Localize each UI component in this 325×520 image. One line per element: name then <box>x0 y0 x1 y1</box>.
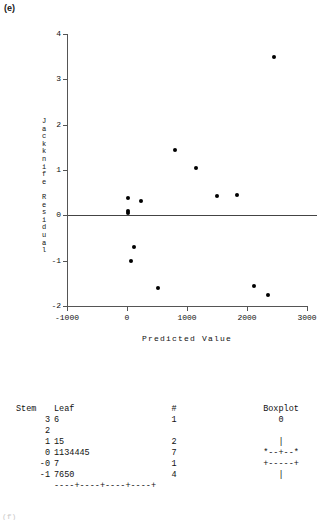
boxplot-cell: 0 <box>250 415 312 426</box>
count-value: 2 <box>168 437 180 448</box>
count-value: 1 <box>168 415 180 426</box>
data-point <box>235 193 239 197</box>
y-tick-label: 4 <box>35 30 61 38</box>
data-point <box>126 196 130 200</box>
data-point <box>272 55 276 59</box>
x-tick-label: 3000 <box>285 314 325 322</box>
panel-label: (e) <box>4 3 15 13</box>
y-axis-title: Jackknife Residual <box>38 118 50 255</box>
y-tick <box>63 34 68 35</box>
x-tick-label: 1000 <box>165 314 209 322</box>
y-tick <box>63 79 68 80</box>
data-point <box>252 284 256 288</box>
stem-leaf-axis-row: ----+----+----+----+ <box>0 481 325 492</box>
leaf-value: 1134445 <box>54 448 90 459</box>
count-value: 4 <box>168 470 180 481</box>
y-tick <box>63 170 68 171</box>
boxplot-cell: | <box>250 470 312 481</box>
y-tick-label: 2 <box>35 121 61 129</box>
stem-value: 1 <box>16 437 50 448</box>
y-tick-label: 1 <box>35 166 61 174</box>
data-point <box>139 199 143 203</box>
stem-leaf-row: -176504| <box>0 470 325 481</box>
boxplot-cell: +-----+ <box>250 459 312 470</box>
x-tick <box>247 306 248 311</box>
leaf-value: 7650 <box>54 470 74 481</box>
stem-leaf-axis-line: ----+----+----+----+ <box>54 481 156 492</box>
data-point <box>215 194 219 198</box>
scatter-plot: Jackknife Residual Predicted Value -2-10… <box>0 22 325 362</box>
data-point <box>194 166 198 170</box>
stem-value: 0 <box>16 448 50 459</box>
x-tick <box>127 306 128 311</box>
x-tick <box>67 306 68 311</box>
leaf-value: 6 <box>54 415 59 426</box>
zero-reference-line <box>67 215 317 216</box>
leaf-header: Leaf <box>54 404 74 415</box>
data-point <box>173 148 177 152</box>
y-tick-label: 3 <box>35 75 61 83</box>
stem-leaf-row: -071+-----+ <box>0 459 325 470</box>
stem-value: -1 <box>16 470 50 481</box>
stem-leaf-row: 011344457*--+--* <box>0 448 325 459</box>
boxplot-cell: *--+--* <box>250 448 312 459</box>
y-axis-title-letter: l <box>38 247 50 255</box>
x-tick-label: 2000 <box>225 314 269 322</box>
stem-and-leaf-plot: Stem Leaf # Boxplot 361021152|011344457*… <box>0 404 325 514</box>
stem-leaf-row: 2 <box>0 426 325 437</box>
stem-leaf-header-row: Stem Leaf # Boxplot <box>0 404 325 415</box>
leaf-value: 15 <box>54 437 64 448</box>
y-tick-label: -2 <box>35 302 61 310</box>
y-tick-label: 0 <box>35 211 61 219</box>
stem-leaf-row: 3610 <box>0 415 325 426</box>
count-header: # <box>168 404 180 415</box>
stem-value: -0 <box>16 459 50 470</box>
stem-value: 3 <box>16 415 50 426</box>
stem-header: Stem <box>16 404 50 415</box>
bottom-fragment: (f) <box>2 512 16 520</box>
boxplot-cell: | <box>250 437 312 448</box>
boxplot-header: Boxplot <box>250 404 312 415</box>
x-tick-label: -1000 <box>45 314 89 322</box>
y-tick <box>63 215 68 216</box>
y-tick-label: -1 <box>35 257 61 265</box>
stem-leaf-rows: 361021152|011344457*--+--*-071+-----+-17… <box>0 415 325 481</box>
leaf-value: 7 <box>54 459 59 470</box>
count-value: 1 <box>168 459 180 470</box>
x-tick-label: 0 <box>105 314 149 322</box>
stem-leaf-row: 1152| <box>0 437 325 448</box>
x-axis-title: Predicted Value <box>67 334 307 343</box>
data-point <box>129 259 133 263</box>
x-tick <box>187 306 188 311</box>
y-tick <box>63 261 68 262</box>
count-value: 7 <box>168 448 180 459</box>
data-point <box>126 211 130 215</box>
data-point <box>156 286 160 290</box>
data-point <box>266 293 270 297</box>
x-tick <box>307 306 308 311</box>
data-point <box>132 245 136 249</box>
y-tick <box>63 125 68 126</box>
stem-value: 2 <box>16 426 50 437</box>
